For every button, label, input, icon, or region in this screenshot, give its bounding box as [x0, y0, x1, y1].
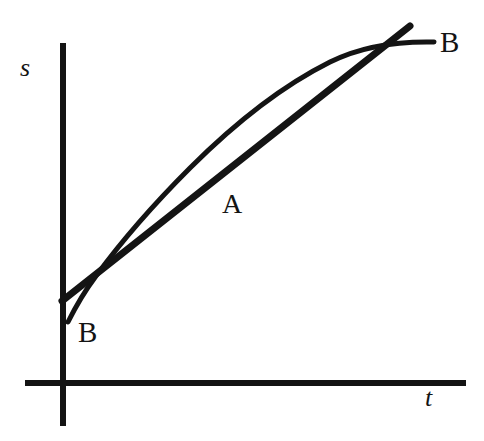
path-b-label-end: B [440, 28, 459, 57]
diagram-svg [0, 0, 484, 441]
path-a-label: A [222, 190, 242, 218]
figure-canvas: s t A B B [0, 0, 484, 441]
curved-path-b [68, 42, 434, 322]
path-b-label-start: B [78, 318, 97, 347]
straight-path-a [62, 26, 410, 301]
y-axis-label: s [20, 55, 30, 81]
x-axis-label: t [425, 385, 432, 411]
